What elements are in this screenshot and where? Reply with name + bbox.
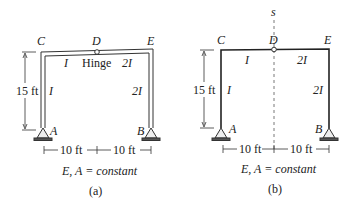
node-label-e-a: E [146,34,155,48]
note-a: E, A = constant [61,164,138,178]
span-label-b-right: 10 ft [290,142,313,156]
node-label-b-a: B [137,124,145,138]
node-label-b-b: B [315,122,323,136]
note-b-text: E, A = constant [240,162,317,176]
node-label-d-a: D [91,34,101,48]
member-label-ac-a: I [48,84,54,98]
pin-support-b-b-icon [320,128,338,141]
span-label-a-right: 10 ft [113,143,136,157]
figure-a: 15 ft 10 ft 10 ft C D E A B I Hinge 2I I… [16,34,160,198]
axis-label-s: s [271,5,276,19]
structural-frames-diagram: 15 ft 10 ft 10 ft C D E A B I Hinge 2I I… [0,0,347,206]
node-label-c-b: C [217,33,226,47]
node-label-a-b: A [228,122,237,136]
hinge-label: Hinge [82,56,111,70]
member-label-cd-b: I [244,53,250,67]
node-label-e-b: E [323,33,332,47]
pin-support-b-icon [142,128,160,141]
member-label-ac-b: I [226,83,232,97]
hinge-icon [95,50,100,55]
height-label-a: 15 ft [16,84,39,98]
member-label-be-a: 2I [132,84,143,98]
span-label-a-left: 10 ft [60,143,83,157]
note-a-text: E, A = constant [61,164,138,178]
pin-support-a-b-icon [212,128,230,141]
node-label-c-a: C [37,34,46,48]
figure-b: s 15 ft [193,5,338,196]
caption-b: (b) [268,182,282,196]
node-label-a-a: A [49,124,58,138]
node-label-d-b: D [268,33,278,47]
member-label-de-a: 2I [122,56,133,70]
note-b: E, A = constant [240,162,317,176]
joint-d-icon [272,47,277,52]
height-label-b: 15 ft [193,83,216,97]
member-label-cd-a: I [63,56,69,70]
member-label-de-b: 2I [297,53,308,67]
member-label-be-b: 2I [313,83,324,97]
span-label-b-left: 10 ft [239,142,262,156]
caption-a: (a) [89,184,102,198]
